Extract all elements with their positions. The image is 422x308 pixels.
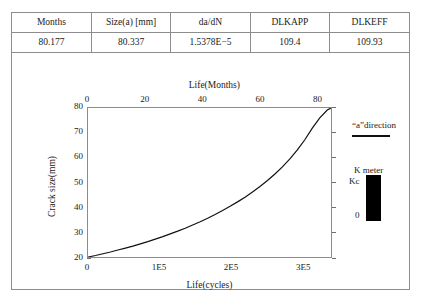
chart-area: Life(Months) Crack size(mm) Life(cycles)… (12, 52, 409, 289)
table-cell-dlkeff: 109.93 (330, 33, 409, 53)
right-axis-tick (332, 107, 336, 108)
kmeter-bottom-label: 0 (355, 210, 360, 220)
right-axis-tick (332, 258, 336, 259)
y-axis-tick-label: 70 (61, 126, 83, 136)
bottom-axis-tick-label: 1E5 (145, 262, 173, 272)
table-column-header-size: Size(a) [mm] (91, 13, 170, 33)
right-axis-tick (332, 132, 336, 133)
y-axis-tick-label: 20 (61, 252, 83, 262)
top-axis-tick-label: 80 (304, 94, 332, 104)
table-column-header-dlkapp: DLKAPP (250, 13, 329, 33)
crack-growth-curve (88, 108, 331, 257)
bottom-axis-title: Life(cycles) (187, 280, 233, 290)
table-column-header-dadn: da/dN (171, 13, 250, 33)
table-column-header-months: Months (12, 13, 91, 33)
right-axis-tick (332, 232, 336, 233)
y-axis-tick-label: 80 (61, 101, 83, 111)
y-axis-tick-label: 50 (61, 177, 83, 187)
top-axis-tick-label: 40 (188, 94, 216, 104)
table-column-header-dlkeff: DLKEFF (330, 13, 409, 33)
legend-direction-label: “a”direction (352, 120, 396, 130)
table-cell-dlkapp: 109.4 (250, 33, 329, 53)
top-axis-tick-label: 20 (131, 94, 159, 104)
plot-area (87, 107, 332, 258)
kmeter-title: K meter (354, 165, 383, 175)
results-table: Months Size(a) [mm] da/dN DLKAPP DLKEFF … (12, 13, 409, 53)
table-header-row: Months Size(a) [mm] da/dN DLKAPP DLKEFF (12, 13, 409, 33)
bottom-axis-tick-label: 3E5 (289, 262, 317, 272)
table-cell-size: 80.337 (91, 33, 170, 53)
y-axis-tick-label: 30 (61, 227, 83, 237)
right-axis-tick (332, 157, 336, 158)
table-row: 80.177 80.337 1.5378E−5 109.4 109.93 (12, 33, 409, 53)
top-axis-title: Life(Months) (189, 80, 240, 90)
kmeter-top-label: Kc (349, 176, 360, 186)
bottom-axis-tick-label: 2E5 (217, 262, 245, 272)
y-axis-title: Crack size(mm) (47, 156, 57, 217)
right-axis-tick (332, 182, 336, 183)
figure-frame: Months Size(a) [mm] da/dN DLKAPP DLKEFF … (11, 12, 410, 290)
right-axis-tick (332, 207, 336, 208)
top-axis-tick-label: 60 (246, 94, 274, 104)
kmeter-bar (366, 175, 381, 221)
y-axis-tick-label: 40 (61, 202, 83, 212)
table-cell-dadn: 1.5378E−5 (171, 33, 250, 53)
y-axis-tick-label: 60 (61, 151, 83, 161)
table-cell-months: 80.177 (12, 33, 91, 53)
legend-direction-line-swatch (352, 135, 390, 137)
bottom-axis-tick-label: 0 (73, 262, 101, 272)
